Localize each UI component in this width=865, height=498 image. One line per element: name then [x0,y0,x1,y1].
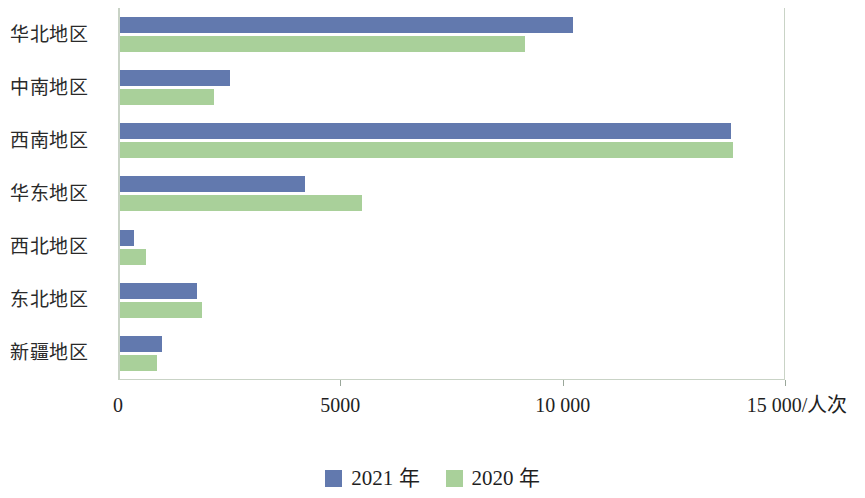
x-axis-tick-label: 5000 [320,392,360,418]
bar [120,355,157,371]
legend-item[interactable]: 2020 年 [446,466,540,490]
category-label: 西南地区 [6,130,118,152]
bar [120,249,146,265]
legend-item[interactable]: 2021 年 [325,466,419,490]
bar [120,142,733,158]
category-label: 中南地区 [6,77,118,99]
category-label: 西北地区 [6,236,118,258]
bar [120,302,202,318]
y-axis-tick-label: 华北地区 [0,8,118,61]
bar-group [120,221,784,274]
y-axis-tick-label: 西南地区 [0,114,118,167]
category-label: 华北地区 [6,24,118,46]
bar-group [120,167,784,220]
bar-group [120,61,784,114]
horizontal-bar-chart: 新疆地区东北地区西北地区华东地区西南地区中南地区华北地区 0500010 000… [0,0,865,498]
x-axis-tick-label: 15 000/人次 [747,392,848,418]
bar-group [120,274,784,327]
legend-swatch-2020 [446,470,463,487]
y-axis-tick-label: 华东地区 [0,167,118,220]
bar-group [120,327,784,380]
category-label: 东北地区 [6,289,118,311]
bar [120,123,731,139]
y-axis-tick-label: 中南地区 [0,61,118,114]
category-label: 新疆地区 [6,342,118,364]
category-label: 华东地区 [6,183,118,205]
x-axis-tick-label: 0 [113,392,123,418]
legend-label: 2021 年 [351,466,419,490]
chart-legend: 2021 年2020 年 [0,466,865,490]
x-axis-tick-label: 10 000 [535,392,590,418]
bar-group [120,8,784,61]
bar [120,70,230,86]
bar [120,336,162,352]
plot-area [118,8,785,380]
bar [120,283,197,299]
x-axis-tick [340,380,341,386]
bar [120,195,362,211]
y-axis-tick-label: 新疆地区 [0,327,118,380]
bar [120,230,134,246]
bar [120,89,214,105]
y-axis-tick-label: 西北地区 [0,221,118,274]
bar [120,36,525,52]
x-axis-tick [785,380,786,386]
y-axis-category-labels: 新疆地区东北地区西北地区华东地区西南地区中南地区华北地区 [0,8,118,380]
y-axis-tick-label: 东北地区 [0,274,118,327]
bar [120,176,305,192]
legend-swatch-2021 [325,470,342,487]
bar-group [120,114,784,167]
x-axis-tick [563,380,564,386]
legend-label: 2020 年 [472,466,540,490]
bar [120,17,573,33]
